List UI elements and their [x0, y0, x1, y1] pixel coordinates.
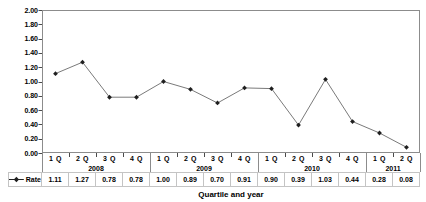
- rate-value-cell: 0.44: [339, 173, 366, 186]
- data-point-marker: [215, 101, 220, 106]
- y-tick-label: 0.80: [6, 91, 38, 100]
- y-tick-label: 1.80: [6, 20, 38, 29]
- quarter-label: 1 Q: [258, 154, 285, 164]
- rate-value-cell: 0.78: [123, 173, 150, 186]
- y-tick-label: 1.40: [6, 48, 38, 57]
- quarter-label: 2 Q: [177, 154, 204, 164]
- quarter-label: 3 Q: [312, 154, 339, 164]
- data-point-marker: [242, 86, 247, 91]
- rate-value-cell: 0.89: [177, 173, 204, 186]
- quarter-label: 2 Q: [285, 154, 312, 164]
- rate-value-cell: 0.08: [393, 173, 419, 186]
- rate-value-cell: 0.70: [204, 173, 231, 186]
- rate-value-cell: 1.00: [150, 173, 177, 186]
- data-point-marker: [377, 131, 382, 136]
- quarter-label: 4 Q: [123, 154, 150, 164]
- quarter-label: 1 Q: [150, 154, 177, 164]
- y-tick-label: 1.20: [6, 63, 38, 72]
- data-point-marker: [134, 95, 139, 100]
- quarter-label: 4 Q: [339, 154, 366, 164]
- data-table-row: Rate 1.111.270.780.781.000.890.700.910.9…: [8, 172, 420, 187]
- quarter-label: 3 Q: [96, 154, 123, 164]
- data-point-marker: [53, 71, 58, 76]
- quarter-label: 3 Q: [204, 154, 231, 164]
- rate-value-cell: 1.11: [42, 173, 69, 186]
- data-point-marker: [188, 87, 193, 92]
- data-point-marker: [350, 119, 355, 124]
- quarter-label: 2 Q: [393, 154, 420, 164]
- data-point-marker: [323, 77, 328, 82]
- rate-series-line: [56, 62, 407, 147]
- rate-value-cell: 1.27: [69, 173, 96, 186]
- plot-border: [43, 11, 420, 153]
- y-tick-label: 0.60: [6, 106, 38, 115]
- quarter-label: 4 Q: [231, 154, 258, 164]
- y-tick-label: 1.00: [6, 77, 38, 86]
- rate-value-cell: 0.78: [96, 173, 123, 186]
- y-tick-label: 0.00: [6, 149, 38, 158]
- y-tick-label: 0.40: [6, 120, 38, 129]
- y-tick-label: 1.60: [6, 34, 38, 43]
- quarter-label: 1 Q: [366, 154, 393, 164]
- rate-value-cell: 0.28: [366, 173, 393, 186]
- quarter-label: 2 Q: [69, 154, 96, 164]
- chart-figure: 0.000.200.400.600.801.001.201.401.601.80…: [0, 0, 426, 202]
- legend-label: Rate: [26, 173, 41, 186]
- data-point-marker: [404, 145, 409, 150]
- rate-value-cell: 0.91: [231, 173, 258, 186]
- rate-value-cell: 0.39: [285, 173, 312, 186]
- y-tick-label: 0.20: [6, 134, 38, 143]
- data-point-marker: [161, 79, 166, 84]
- legend-line-marker-icon: [9, 176, 24, 183]
- legend-cell: Rate: [9, 173, 42, 186]
- rate-value-cell: 0.90: [258, 173, 285, 186]
- x-axis-title: Quartile and year: [42, 189, 420, 200]
- y-tick-label: 2.00: [6, 6, 38, 15]
- quarter-label: 1 Q: [42, 154, 69, 164]
- rate-value-cell: 1.03: [312, 173, 339, 186]
